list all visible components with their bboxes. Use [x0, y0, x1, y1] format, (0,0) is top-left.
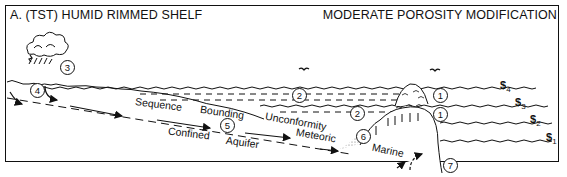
- cloud-rain-icon: [27, 32, 69, 64]
- sea-level-2: $2: [530, 113, 541, 128]
- shelf-cross-section: [0, 0, 567, 177]
- bird-icon: [430, 69, 440, 71]
- callout-1-lower: 1: [433, 107, 448, 122]
- callout-2-backreef: 2: [350, 106, 365, 121]
- callout-2-lagoon: 2: [292, 88, 307, 103]
- sea-level-1: $1: [546, 131, 557, 146]
- callout-5-aquifer: 5: [220, 118, 235, 133]
- callout-4-runoff: 4: [30, 83, 45, 98]
- sea-level-3: $3: [515, 96, 526, 111]
- callout-1-upper: 1: [433, 88, 448, 103]
- arrow-icon: [10, 86, 422, 170]
- callout-3-rain: 3: [60, 60, 75, 75]
- bird-icon: [299, 68, 309, 70]
- sea-level-4: $4: [500, 79, 511, 94]
- callout-6-meteoric: 6: [356, 129, 371, 144]
- callout-7-marine: 7: [443, 158, 458, 173]
